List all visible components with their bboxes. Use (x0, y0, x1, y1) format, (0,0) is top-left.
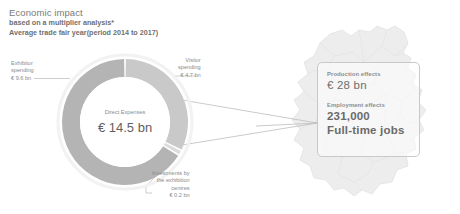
donut-center-value: € 14.5 bn (98, 120, 152, 135)
page-title: Economic impact (9, 7, 158, 18)
employment-effects-unit: Full-time jobs (327, 123, 419, 137)
effects-callout-box: Production effects € 28 bn Employment ef… (317, 62, 420, 157)
employment-effects-value: 231,000 (327, 109, 419, 123)
label-exhibitor-line2: spending (11, 67, 34, 74)
label-investments: Investments by the exhibition centres € … (152, 170, 190, 200)
employment-effects-caption: Employment effects (327, 101, 419, 109)
label-exhibitor-value: € 9.6 bn (11, 75, 34, 82)
label-investments-line2: the exhibition (152, 177, 190, 184)
label-visitor-line2: spending (178, 64, 201, 71)
production-effects-caption: Production effects (327, 70, 419, 78)
donut-center-label: Direct Expenses (105, 109, 146, 115)
label-exhibitor-spending: Exhibitor spending € 9.6 bn (11, 60, 34, 82)
production-effects-value: € 28 bn (327, 78, 419, 92)
title-subline-2: Average trade fair year(period 2014 to 2… (9, 28, 158, 38)
title-block: Economic impact based on a multiplier an… (9, 7, 158, 37)
infographic-root: Economic impact based on a multiplier an… (0, 0, 460, 214)
label-exhibitor-line1: Exhibitor (11, 60, 34, 67)
label-visitor-spending: Visitor spending € 4.7 bn (178, 57, 201, 79)
label-investments-value: € 0.2 bn (152, 192, 190, 199)
title-subline-1: based on a multiplier analysis* (9, 18, 158, 28)
label-visitor-line1: Visitor (178, 57, 201, 64)
label-investments-line3: centres (152, 185, 190, 192)
label-investments-line1: Investments by (152, 170, 190, 177)
label-visitor-value: € 4.7 bn (178, 72, 201, 79)
